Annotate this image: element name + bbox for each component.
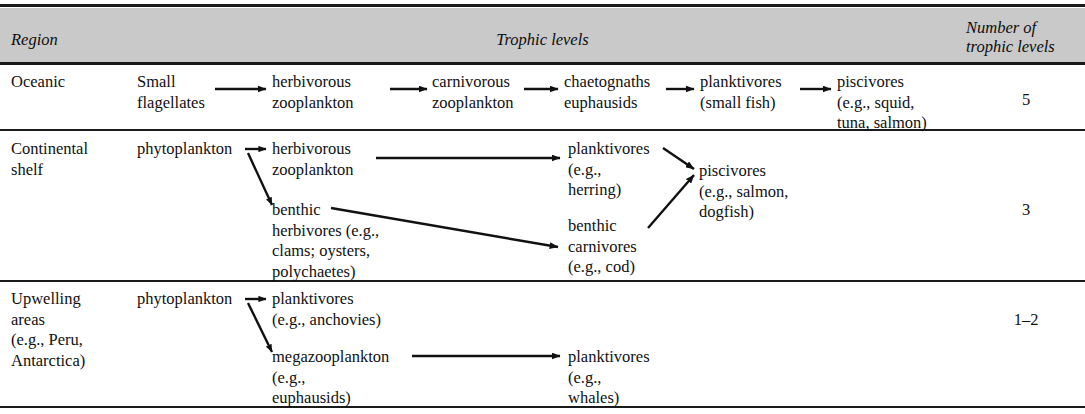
- node-oceanic-planktivores: planktivores (small fish): [700, 72, 782, 113]
- column-header-number-of-trophic-levels: Number of trophic levels: [966, 18, 1055, 56]
- count-continental-shelf: 3: [966, 200, 1085, 221]
- arrow-phytoplankton-to-benthic-herbivores: [248, 153, 272, 205]
- table-top-rule: [0, 4, 1085, 7]
- count-oceanic: 5: [966, 90, 1085, 111]
- node-shelf-benthic-herbivores: benthic herbivores (e.g., clams; oysters…: [272, 200, 379, 282]
- node-oceanic-small-flagellates: Small flagellates: [137, 72, 205, 113]
- node-shelf-planktivores: planktivores (e.g., herring): [568, 139, 650, 201]
- node-upwelling-planktivores-anchovies: planktivores (e.g., anchovies): [272, 289, 381, 330]
- node-oceanic-carnivorous-zooplankton: carnivorous zooplankton: [432, 72, 514, 113]
- header-bottom-rule: [0, 62, 1085, 65]
- node-upwelling-phytoplankton: phytoplankton: [137, 289, 232, 310]
- node-oceanic-piscivores: piscivores (e.g., squid, tuna, salmon): [837, 72, 927, 134]
- node-shelf-phytoplankton: phytoplankton: [137, 139, 232, 160]
- node-shelf-benthic-carnivores: benthic carnivores (e.g., cod): [568, 216, 637, 278]
- node-upwelling-planktivores-whales: planktivores (e.g., whales): [568, 347, 650, 409]
- node-oceanic-herbivorous-zooplankton: herbivorous zooplankton: [272, 72, 354, 113]
- table-bottom-rule: [0, 406, 1085, 408]
- row-divider-2: [0, 280, 1085, 282]
- node-upwelling-megazooplankton: megazooplankton (e.g., euphausids): [272, 347, 389, 409]
- node-shelf-piscivores: piscivores (e.g., salmon, dogfish): [699, 161, 788, 223]
- column-header-trophic-levels: Trophic levels: [0, 30, 1085, 49]
- arrow-planktivores-to-piscivores: [663, 148, 694, 169]
- row-region-continental-shelf: Continental shelf: [11, 139, 88, 180]
- node-shelf-herbivorous-zooplankton: herbivorous zooplankton: [272, 139, 354, 180]
- arrow-phytoplankton-to-megazooplankton: [248, 303, 272, 352]
- arrow-benthic-carnivores-to-piscivores: [648, 175, 694, 228]
- node-oceanic-chaetognaths-euphausids: chaetognaths euphausids: [564, 72, 650, 113]
- count-upwelling-areas: 1–2: [966, 310, 1085, 331]
- row-region-oceanic: Oceanic: [11, 72, 65, 93]
- trophic-levels-table: Region Trophic levels Number of trophic …: [0, 0, 1085, 414]
- row-region-upwelling-areas: Upwelling areas (e.g., Peru, Antarctica): [11, 289, 85, 371]
